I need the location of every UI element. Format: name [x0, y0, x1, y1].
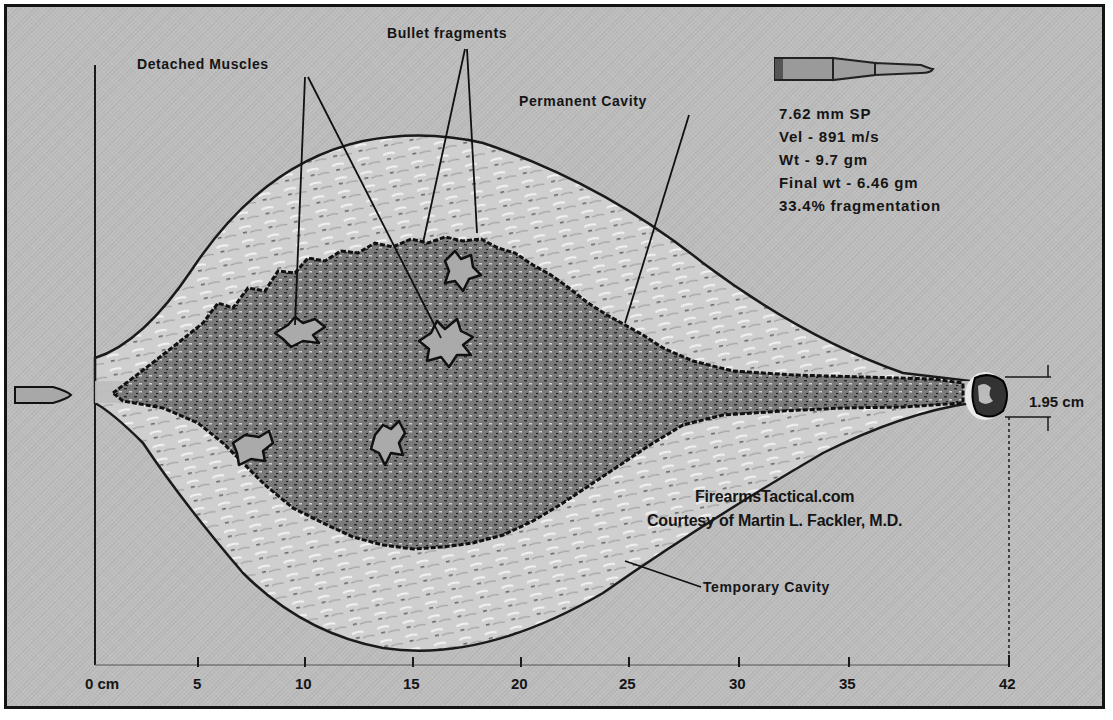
spec-velocity: Vel - 891 m/s [779, 125, 941, 148]
axis-tick-5: 5 [193, 675, 201, 692]
label-detached-muscles: Detached Muscles [137, 56, 269, 72]
axis-tick-30: 30 [729, 675, 746, 692]
label-permanent-cavity: Permanent Cavity [519, 93, 647, 109]
bullet-specs: 7.62 mm SP Vel - 891 m/s Wt - 9.7 gm Fin… [779, 102, 941, 217]
axis-tick-35: 35 [839, 675, 856, 692]
cartridge-icon [775, 58, 933, 80]
axis-label-origin: 0 cm [85, 675, 119, 692]
axis-tick-20: 20 [511, 675, 528, 692]
credit-author: Courtesy of Martin L. Fackler, M.D. [647, 509, 902, 533]
spec-weight: Wt - 9.7 gm [779, 148, 941, 171]
spec-fragmentation: 33.4% fragmentation [779, 194, 941, 217]
leader-temporary-cavity [625, 561, 701, 587]
credit-block: FirearmsTactical.com Courtesy of Martin … [647, 485, 902, 533]
incoming-bullet-icon [15, 387, 71, 403]
axis-tick-15: 15 [403, 675, 420, 692]
exit-diameter-label: 1.95 cm [1029, 393, 1084, 410]
spec-final-weight: Final wt - 6.46 gm [779, 171, 941, 194]
axis-tick-42: 42 [999, 675, 1016, 692]
exit-wound [965, 372, 1007, 420]
label-temporary-cavity: Temporary Cavity [703, 579, 830, 595]
exit-diameter-dimension [1005, 365, 1051, 665]
label-bullet-fragments: Bullet fragments [387, 25, 507, 41]
diagram-frame: Detached Muscles Bullet fragments Perman… [4, 4, 1105, 709]
axis-tick-10: 10 [295, 675, 312, 692]
axis-tick-25: 25 [619, 675, 636, 692]
spec-caliber: 7.62 mm SP [779, 102, 941, 125]
credit-site: FirearmsTactical.com [647, 485, 902, 509]
